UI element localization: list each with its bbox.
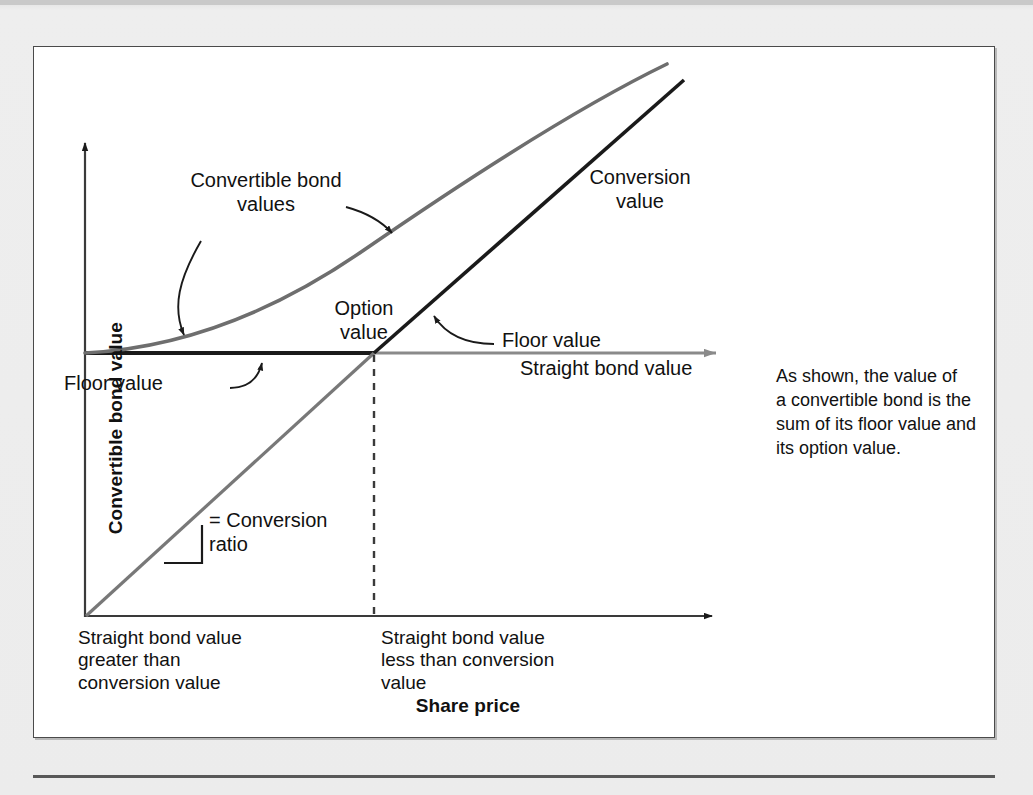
convertible-bond-values-leader-left <box>178 241 201 335</box>
page-top-edge <box>0 0 1033 5</box>
callout-straight-bond-value: Straight bond value <box>520 357 780 381</box>
x-axis-title: Share price <box>363 695 573 717</box>
floor-value-right-leader <box>434 316 494 344</box>
region-note-right: Straight bond value less than conversion… <box>381 627 651 694</box>
callout-option-value: Option value <box>299 297 429 344</box>
callout-floor-value-left: Floor value <box>64 372 244 396</box>
callout-floor-value-right: Floor value <box>502 329 682 353</box>
bottom-divider-rule <box>33 775 995 778</box>
region-note-left: Straight bond value greater than convers… <box>78 627 328 694</box>
conversion-ratio-triangle-icon <box>164 525 202 563</box>
callout-conversion-ratio: = Conversion ratio <box>209 509 399 556</box>
y-axis-title: Convertible bond value <box>105 298 127 558</box>
figure-frame: Convertible bond value Share price Conve… <box>33 46 995 738</box>
callout-convertible-bond-values: Convertible bond values <box>156 169 376 216</box>
callout-conversion-value: Conversion value <box>555 166 725 213</box>
side-note: As shown, the value of a convertible bon… <box>776 365 996 461</box>
